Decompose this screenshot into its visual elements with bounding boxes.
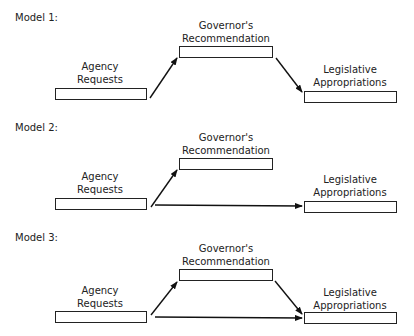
governor-label-line2: Recommendation: [182, 32, 270, 45]
legislative-label: Legislative Appropriations: [313, 286, 386, 312]
legislative-label-line1: Legislative: [313, 173, 386, 186]
agency-label-line2: Requests: [77, 183, 123, 196]
agency-label-line1: Agency: [77, 60, 123, 73]
governor-label-line1: Governor's: [182, 19, 270, 32]
agency-box: [55, 311, 147, 323]
governor-label-line2: Recommendation: [182, 144, 270, 157]
legislative-label: Legislative Appropriations: [313, 63, 386, 89]
legislative-label-line2: Appropriations: [313, 76, 386, 89]
governor-box: [179, 269, 273, 281]
legislative-label: Legislative Appropriations: [313, 173, 386, 199]
agency-label: Agency Requests: [77, 170, 123, 196]
legislative-label-line1: Legislative: [313, 63, 386, 76]
legislative-label-line2: Appropriations: [313, 299, 386, 312]
agency-label: Agency Requests: [77, 60, 123, 86]
governor-label-line2: Recommendation: [182, 255, 270, 268]
governor-label-line1: Governor's: [182, 131, 270, 144]
agency-box: [55, 198, 147, 210]
agency-label-line1: Agency: [77, 170, 123, 183]
legislative-label-line1: Legislative: [313, 286, 386, 299]
governor-label: Governor's Recommendation: [182, 131, 270, 157]
governor-box: [179, 46, 273, 58]
governor-box: [179, 158, 273, 170]
arrow-agency-to-legislative: [155, 317, 302, 318]
arrow-agency-to-governor: [151, 170, 177, 207]
model-3-title: Model 3:: [15, 232, 58, 244]
legislative-box: [304, 91, 397, 103]
arrow-agency-to-legislative: [155, 205, 302, 206]
legislative-box: [304, 201, 397, 213]
legislative-box: [304, 312, 397, 324]
arrow-governor-to-legislative: [276, 58, 302, 92]
arrow-governor-to-legislative: [275, 281, 302, 314]
legislative-label-line2: Appropriations: [313, 186, 386, 199]
governor-label: Governor's Recommendation: [182, 242, 270, 268]
agency-label-line1: Agency: [77, 284, 123, 297]
agency-label-line2: Requests: [77, 297, 123, 310]
agency-label-line2: Requests: [77, 73, 123, 86]
agency-label: Agency Requests: [77, 284, 123, 310]
governor-label: Governor's Recommendation: [182, 19, 270, 45]
arrow-agency-to-governor: [150, 58, 177, 98]
model-2-title: Model 2:: [15, 122, 58, 134]
agency-box: [55, 88, 147, 100]
governor-label-line1: Governor's: [182, 242, 270, 255]
arrow-agency-to-governor: [151, 282, 177, 315]
model-1-title: Model 1:: [15, 12, 58, 24]
